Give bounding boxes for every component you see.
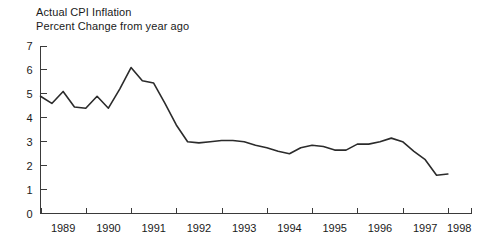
x-tick-label: 1997 [413, 222, 437, 234]
x-tick-label: 1990 [96, 222, 120, 234]
chart-figure: Actual CPI Inflation Percent Change from… [0, 0, 494, 251]
x-tick-label: 1992 [187, 222, 211, 234]
x-tick-label: 1991 [141, 222, 165, 234]
x-tick-group: 1989199019911992199319941995199619971998 [42, 208, 472, 234]
y-tick-label: 4 [26, 112, 32, 124]
y-tick-label: 1 [26, 184, 32, 196]
x-tick-label: 1998 [447, 222, 471, 234]
y-tick-label: 6 [26, 64, 32, 76]
series-group [41, 68, 448, 176]
x-tick-label: 1995 [322, 222, 346, 234]
x-tick-label: 1993 [232, 222, 256, 234]
y-tick-label: 7 [26, 40, 32, 52]
y-tick-label: 5 [26, 88, 32, 100]
line-chart-plot: 01234567 1989199019911992199319941995199… [0, 0, 494, 251]
y-axis: 01234567 [26, 40, 46, 220]
x-tick-label: 1989 [51, 222, 75, 234]
x-tick-label: 1996 [368, 222, 392, 234]
y-tick-label: 2 [26, 160, 32, 172]
x-axis: 1989199019911992199319941995199619971998 [41, 208, 472, 234]
x-tick-label: 1994 [277, 222, 301, 234]
y-tick-group: 01234567 [26, 40, 46, 220]
series-line-cpi-inflation [41, 68, 448, 176]
y-tick-label: 3 [26, 136, 32, 148]
y-tick-label: 0 [26, 208, 32, 220]
